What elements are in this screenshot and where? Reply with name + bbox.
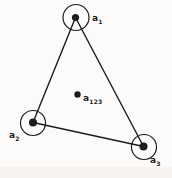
interior-dot-a123: [74, 91, 80, 97]
vertex-dot-a1: [72, 14, 79, 21]
scan-edge-band: [0, 167, 172, 178]
label-a3-sub: 3: [156, 160, 160, 167]
triangle-diagram: a1 a2 a3 a123: [0, 0, 172, 178]
vertex-dot-a2: [29, 119, 37, 127]
label-a123-sub: 123: [89, 98, 102, 105]
triangle-figure: a1 a2 a3 a123: [0, 0, 172, 178]
label-a1-sub: 1: [98, 18, 102, 25]
label-a2-sub: 2: [15, 135, 19, 142]
vertex-dot-a3: [140, 143, 148, 151]
